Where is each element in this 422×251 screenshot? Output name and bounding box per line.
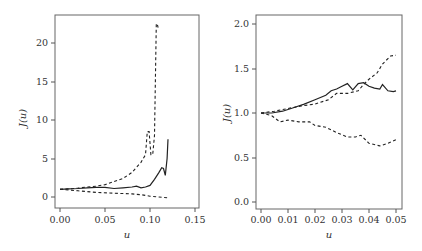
right-x-tick-label: 0.02 <box>304 214 325 225</box>
left-y-axis <box>51 43 55 197</box>
right-x-axis <box>261 209 396 213</box>
right-x-tick-label: 0.00 <box>250 214 271 225</box>
right-y-tick-label: 0.0 <box>234 196 249 207</box>
left-y-tick-label: 10 <box>36 114 48 125</box>
left-x-tick-label: 0.00 <box>49 214 70 225</box>
left-y-tick-label: 0 <box>42 191 48 202</box>
left-y-tick-label: 20 <box>36 37 48 48</box>
right-x-tick-label: 0.04 <box>358 214 379 225</box>
right-x-tick-label: 0.05 <box>385 214 406 225</box>
right-series <box>261 55 396 146</box>
right-series-lower-dashed <box>261 113 396 146</box>
right-y-tick-label: 1.0 <box>234 107 249 118</box>
left-y-tick-label: 5 <box>42 153 48 164</box>
right-y-axis <box>252 24 256 202</box>
right-x-tick-label: 0.01 <box>277 214 298 225</box>
left-x-tick-label: 0.15 <box>184 214 205 225</box>
right-y-axis-label: J(u) <box>221 104 232 124</box>
right-x-axis-label: u <box>326 229 332 240</box>
right-x-tick-label: 0.03 <box>331 214 352 225</box>
right-panel: 2.0 1.5 1.0 0.5 0.0 0.00 0.01 0.02 0.03 … <box>221 15 407 240</box>
left-plot-frame <box>55 15 199 208</box>
left-series-solid <box>60 139 168 189</box>
left-x-axis-label: u <box>124 229 130 240</box>
right-y-tick-label: 1.5 <box>234 63 249 74</box>
left-series <box>60 24 168 198</box>
right-series-solid <box>261 83 396 113</box>
left-x-axis <box>60 208 195 212</box>
left-x-tick-label: 0.05 <box>94 214 115 225</box>
right-series-upper-dashed <box>261 55 396 113</box>
left-series-upper-dashed <box>60 24 158 190</box>
left-series-lower-dashed <box>60 189 168 198</box>
left-x-tick-label: 0.10 <box>139 214 160 225</box>
chart-canvas: 20 15 10 5 0 0.00 0.05 0.10 0.15 u J(u) <box>0 0 422 251</box>
left-y-tick-label: 15 <box>36 76 48 87</box>
right-y-tick-label: 0.5 <box>234 152 249 163</box>
left-y-axis-label: J(u) <box>17 109 28 129</box>
left-panel: 20 15 10 5 0 0.00 0.05 0.10 0.15 u J(u) <box>17 15 206 240</box>
right-y-tick-label: 2.0 <box>234 18 249 29</box>
